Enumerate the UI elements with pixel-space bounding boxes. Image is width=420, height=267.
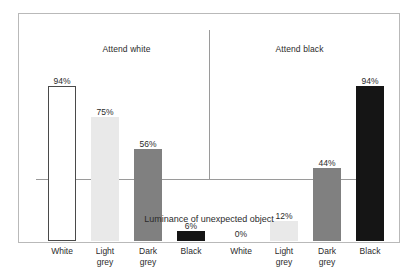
tick-label-line1: Black — [341, 246, 399, 257]
bar-right-darkgrey — [313, 168, 341, 241]
plot-area: Attend white Attend black 94% White 75% — [19, 14, 399, 242]
chart-frame: Attend white Attend black 94% White 75% — [18, 13, 400, 243]
bar-left-darkgrey — [134, 149, 162, 241]
tick-label-right-black: Black — [341, 246, 399, 257]
group-title-attend-black: Attend black — [217, 44, 382, 54]
tick-label-line2: grey — [119, 257, 177, 267]
group-title-attend-white: Attend white — [49, 44, 204, 54]
bar-right-lightgrey — [270, 221, 298, 241]
bar-value-label: 94% — [339, 76, 401, 86]
tick-label-line2: grey — [298, 257, 356, 267]
bar-left-black — [177, 231, 205, 241]
x-axis-title: Luminance of unexpected object — [19, 214, 399, 224]
